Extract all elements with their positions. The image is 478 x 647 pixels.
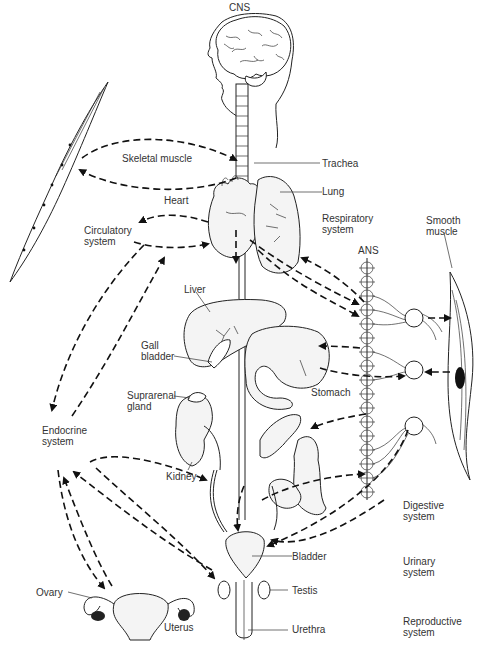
label-endocrine-system: Endocrine system xyxy=(42,425,87,447)
label-urinary-system: Urinary system xyxy=(403,556,435,578)
ovary-icon xyxy=(91,611,105,621)
label-lung: Lung xyxy=(322,186,344,197)
diagram-artwork xyxy=(0,0,478,647)
label-ovary: Ovary xyxy=(36,587,63,598)
heart-icon xyxy=(208,176,259,258)
label-suprarenal-gland: Suprarenal gland xyxy=(127,390,176,412)
label-uterus: Uterus xyxy=(164,622,193,633)
label-testis: Testis xyxy=(292,585,318,596)
lung-icon xyxy=(254,177,300,274)
uterus-icon xyxy=(84,594,194,641)
head-brain-icon xyxy=(208,14,293,148)
label-circulatory-system: Circulatory system xyxy=(84,225,132,247)
label-smooth-muscle: Smooth muscle xyxy=(426,215,460,237)
male-reproductive-icon xyxy=(218,580,270,640)
smooth-muscle-icon xyxy=(444,233,473,480)
label-gall-bladder: Gall bladder xyxy=(141,340,174,362)
label-kidney: Kidney xyxy=(166,471,197,482)
label-cns: CNS xyxy=(229,2,250,13)
intestine-icon xyxy=(260,415,326,530)
kidney-icon xyxy=(176,393,221,470)
ans-ganglia-chain-icon xyxy=(359,258,442,500)
label-respiratory-system: Respiratory system xyxy=(322,213,373,235)
label-ans: ANS xyxy=(358,245,379,256)
label-urethra: Urethra xyxy=(292,624,325,635)
label-heart: Heart xyxy=(164,195,188,206)
label-digestive-system: Digestive system xyxy=(403,500,444,522)
label-liver: Liver xyxy=(184,284,206,295)
bladder-icon xyxy=(226,532,265,578)
label-skeletal-muscle: Skeletal muscle xyxy=(122,153,192,164)
label-stomach: Stomach xyxy=(311,387,350,398)
skeletal-muscle-icon xyxy=(10,82,108,282)
body-systems-diagram: CNS Skeletal muscle Trachea Heart Lung R… xyxy=(0,0,478,647)
label-reproductive-system: Reproductive system xyxy=(403,616,462,638)
label-trachea: Trachea xyxy=(322,158,358,169)
label-bladder: Bladder xyxy=(292,551,326,562)
